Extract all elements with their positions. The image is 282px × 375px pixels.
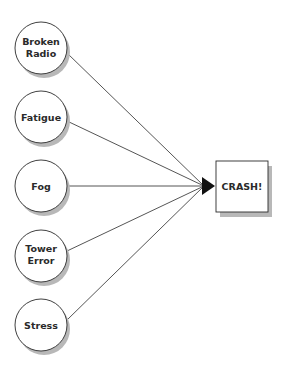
connector-fatigue: [67, 121, 204, 186]
cause-label-line: Stress: [24, 320, 58, 331]
cause-node-fog: Fog: [15, 160, 70, 216]
connector-tower-error: [67, 186, 204, 251]
arrowhead-icon: [202, 177, 215, 195]
effect-label: CRASH!: [222, 181, 263, 192]
cause-effect-diagram: Broken Radio Fatigue Fog Tower Error Str…: [0, 0, 282, 375]
cause-label-line: Error: [27, 255, 54, 266]
cause-node-stress: Stress: [15, 299, 70, 355]
cause-label-line: Fog: [31, 181, 50, 192]
cause-label-line: Radio: [26, 48, 57, 59]
connector-lines: [67, 53, 204, 320]
cause-node-fatigue: Fatigue: [15, 91, 70, 147]
cause-label-line: Broken: [22, 36, 60, 47]
connector-stress: [67, 186, 204, 320]
cause-label-line: Tower: [25, 243, 57, 254]
effect-node-crash: CRASH!: [216, 161, 272, 217]
connector-broken-radio: [67, 53, 204, 186]
cause-node-tower-error: Tower Error: [15, 230, 70, 286]
cause-label-line: Fatigue: [21, 112, 61, 123]
cause-node-broken-radio: Broken Radio: [15, 22, 70, 78]
